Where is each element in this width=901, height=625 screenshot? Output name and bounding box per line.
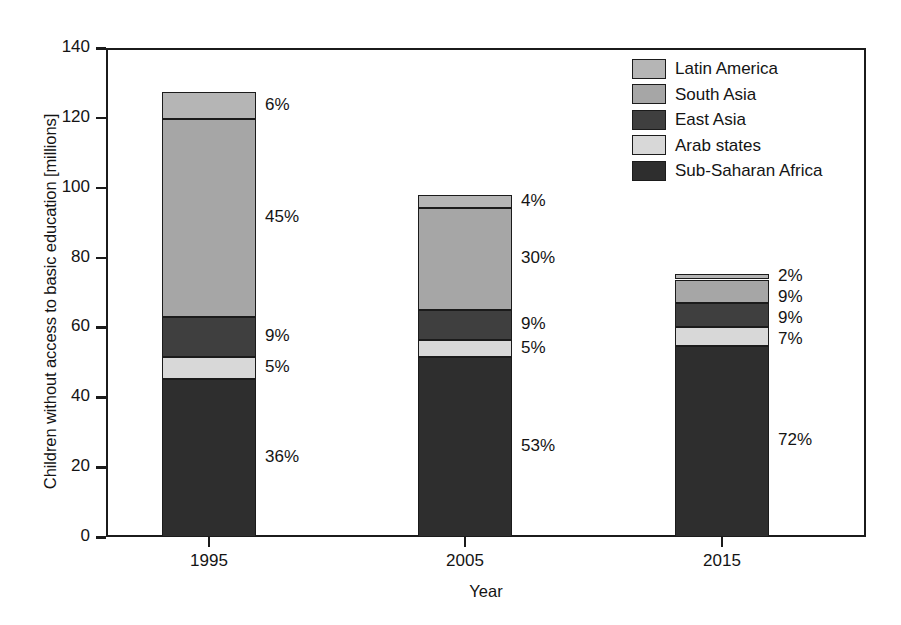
legend-label: Sub-Saharan Africa [675, 162, 822, 179]
segment-percent-label: 72% [778, 430, 812, 450]
legend-label: East Asia [675, 111, 746, 128]
bar-segment[interactable] [418, 357, 512, 537]
legend-swatch-icon [632, 135, 666, 155]
bar-segment[interactable] [675, 280, 769, 304]
segment-percent-label: 2% [778, 266, 803, 286]
x-axis-title: Year [106, 582, 866, 601]
legend-label: Latin America [675, 60, 778, 77]
bar-segment[interactable] [418, 340, 512, 357]
bar-segment[interactable] [418, 310, 512, 340]
x-tick-label: 1995 [149, 551, 269, 571]
legend-item[interactable]: Sub-Saharan Africa [632, 158, 860, 184]
y-tick-label: 20 [71, 456, 90, 476]
segment-percent-label: 30% [521, 248, 555, 268]
segment-percent-label: 5% [521, 338, 546, 358]
y-tick-mark [96, 117, 106, 120]
segment-percent-label: 53% [521, 436, 555, 456]
x-tick-mark [464, 537, 467, 547]
legend-swatch-icon [632, 110, 666, 130]
legend-item[interactable]: East Asia [632, 107, 860, 133]
bar-segment[interactable] [162, 379, 256, 537]
legend-swatch-icon [632, 59, 666, 79]
y-tick-label: 120 [62, 107, 90, 127]
segment-percent-label: 36% [265, 447, 299, 467]
segment-percent-label: 9% [265, 326, 290, 346]
y-tick-label: 40 [71, 386, 90, 406]
y-tick-label: 80 [71, 247, 90, 267]
bar-segment[interactable] [675, 274, 769, 279]
legend: Latin AmericaSouth AsiaEast AsiaArab sta… [632, 52, 860, 186]
bar-segment[interactable] [162, 357, 256, 379]
legend-swatch-icon [632, 84, 666, 104]
bar-segment[interactable] [675, 346, 769, 537]
y-tick-label: 60 [71, 316, 90, 336]
x-tick-label: 2005 [405, 551, 525, 571]
bar-segment[interactable] [418, 195, 512, 209]
segment-percent-label: 9% [521, 314, 546, 334]
legend-swatch-icon [632, 161, 666, 181]
y-tick-mark [96, 187, 106, 190]
y-tick-mark [96, 396, 106, 399]
y-tick-mark [96, 466, 106, 469]
bar-segment[interactable] [675, 303, 769, 327]
x-tick-label: 2015 [662, 551, 782, 571]
x-tick-mark [721, 537, 724, 547]
y-tick-label: 0 [81, 526, 90, 546]
y-tick-label: 140 [62, 37, 90, 57]
stacked-bar-chart: Children without access to basic educati… [0, 0, 901, 625]
x-tick-mark [208, 537, 211, 547]
legend-item[interactable]: Arab states [632, 133, 860, 159]
segment-percent-label: 9% [778, 308, 803, 328]
segment-percent-label: 45% [265, 207, 299, 227]
bar-segment[interactable] [162, 317, 256, 357]
y-tick-mark [96, 536, 106, 539]
bar-segment[interactable] [162, 92, 256, 118]
y-tick-label: 100 [62, 177, 90, 197]
segment-percent-label: 4% [521, 191, 546, 211]
segment-percent-label: 7% [778, 329, 803, 349]
bar-segment[interactable] [675, 327, 769, 346]
bar-segment[interactable] [162, 119, 256, 317]
segment-percent-label: 5% [265, 357, 290, 377]
legend-label: Arab states [675, 137, 761, 154]
legend-item[interactable]: Latin America [632, 56, 860, 82]
segment-percent-label: 9% [778, 287, 803, 307]
legend-item[interactable]: South Asia [632, 82, 860, 108]
y-tick-mark [96, 326, 106, 329]
legend-label: South Asia [675, 86, 756, 103]
segment-percent-label: 6% [265, 95, 290, 115]
y-tick-mark [96, 47, 106, 50]
bar-segment[interactable] [418, 208, 512, 310]
y-tick-mark [96, 257, 106, 260]
y-axis-title: Children without access to basic educati… [41, 52, 60, 552]
